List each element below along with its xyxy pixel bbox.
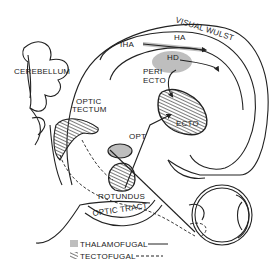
visual-pathway-diagram: VISUAL WULST IHA HA HD PERI ECTO ECTO CE… [0,0,274,278]
legend-tectofugal-swatch [70,252,78,259]
caudal-curve [168,160,205,178]
optic-tectum-region [54,119,98,160]
eye [189,185,252,245]
label-periecto-1: PERI [143,67,162,76]
brainstem-line-1 [30,108,40,145]
label-optic-tectum-2: TECTUM [72,105,107,114]
label-cerebellum: CEREBELLUM [14,67,70,76]
label-periecto-2: ECTO [143,76,166,85]
cerebellum-outline [23,42,68,111]
label-iha: IHA [120,40,134,49]
legend-thalamofugal-label: THALAMOFUGAL [80,240,148,249]
label-ecto: ECTO [176,119,199,128]
legend: THALAMOFUGAL TECTOFUGAL [70,240,168,261]
tectum-to-rotundus-dashed [82,140,113,180]
legend-tectofugal-label: TECTOFUGAL [80,252,136,261]
label-ha: HA [174,33,186,42]
label-rotundus: ROTUNDUS [98,192,145,201]
ha-arrow [143,44,205,50]
rotundus-region [109,163,135,191]
label-hd: HD [167,53,179,62]
legend-thalamofugal-swatch [70,240,78,247]
label-opt: OPT [129,132,146,141]
